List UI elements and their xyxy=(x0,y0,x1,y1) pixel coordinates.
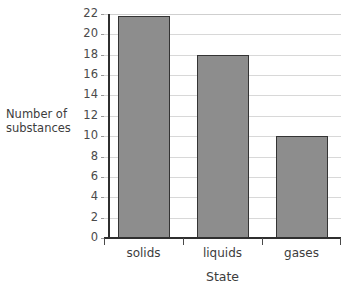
x-axis-tick-label: solids xyxy=(104,246,183,260)
y-axis-tick-label: 14 xyxy=(72,89,98,101)
x-axis-tick-label: liquids xyxy=(183,246,262,260)
x-axis-tick-marks xyxy=(104,238,341,246)
y-axis-tick-label: 10 xyxy=(72,130,98,142)
y-axis-tick-label: 16 xyxy=(72,69,98,81)
x-axis-tick-labels: solidsliquidsgases xyxy=(104,246,341,264)
y-axis-tick-label: 6 xyxy=(72,171,98,183)
y-axis-tick-label: 20 xyxy=(72,28,98,40)
y-axis-tick-label: 12 xyxy=(72,110,98,122)
y-axis-tick-labels: 0246810121416182022 xyxy=(72,14,98,238)
bar xyxy=(118,16,170,238)
x-axis-title: State xyxy=(104,269,341,284)
x-axis-tick-mark xyxy=(104,238,105,245)
y-axis-tick-label: 0 xyxy=(72,232,98,244)
bar-chart-figure: Number of substances 0246810121416182022… xyxy=(0,0,341,294)
y-axis-tick-label: 4 xyxy=(72,191,98,203)
bar xyxy=(276,136,328,238)
x-axis-tick-mark xyxy=(183,238,184,245)
y-axis-tick-label: 22 xyxy=(72,8,98,20)
y-axis-tick-label: 2 xyxy=(72,212,98,224)
plot-area xyxy=(104,14,341,238)
y-axis-title: Number of substances xyxy=(6,108,80,135)
x-axis-tick-mark xyxy=(262,238,263,245)
y-axis-line xyxy=(108,14,110,238)
bar xyxy=(197,55,249,238)
x-axis-tick-label: gases xyxy=(262,246,341,260)
y-axis-tick-label: 18 xyxy=(72,49,98,61)
y-axis-tick-label: 8 xyxy=(72,151,98,163)
gridline xyxy=(104,14,341,15)
